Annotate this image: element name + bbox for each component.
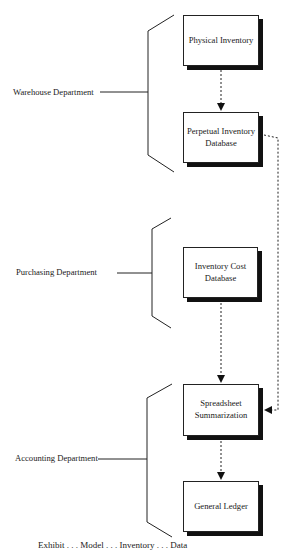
general-ledger-label: General Ledger xyxy=(194,501,248,513)
figure-caption: Exhibit . . . Model . . . Inventory . . … xyxy=(38,540,187,550)
accounting-bracket xyxy=(98,384,172,537)
physical-inventory-label: Physical Inventory xyxy=(189,35,254,47)
warehouse-department-label: Warehouse Department xyxy=(13,88,94,97)
accounting-department-label: Accounting Department xyxy=(15,454,98,463)
spreadsheet-summarization-box: Spreadsheet Summarization xyxy=(183,384,259,436)
inventory-cost-database-label: Inventory Cost Database xyxy=(195,261,246,284)
perpetual-inventory-database-box: Perpetual Inventory Database xyxy=(183,112,259,163)
purchasing-department-label: Purchasing Department xyxy=(16,268,97,277)
perpetual-inventory-database-label: Perpetual Inventory Database xyxy=(187,126,255,149)
purchasing-bracket xyxy=(117,218,171,328)
inventory-cost-database-box: Inventory Cost Database xyxy=(183,247,258,298)
physical-inventory-box: Physical Inventory xyxy=(183,15,259,66)
spreadsheet-summarization-label: Spreadsheet Summarization xyxy=(195,398,248,421)
arrow-perpetual-to-spreadsheet xyxy=(264,135,278,410)
general-ledger-box: General Ledger xyxy=(183,481,259,532)
warehouse-bracket xyxy=(100,15,174,172)
